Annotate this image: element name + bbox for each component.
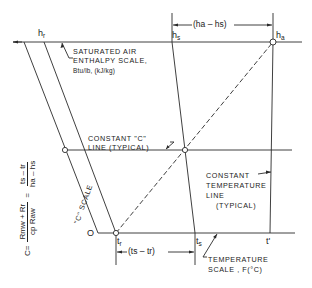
label-ha-minus-hs: (ha – hs) <box>193 19 227 29</box>
formula-fraction-2: ts – tr ha – hs <box>18 159 37 189</box>
constant-temp-label-1: CONSTANT <box>206 171 250 180</box>
label-ts: ts <box>196 236 202 249</box>
label-ha: ha <box>276 30 285 43</box>
enthalpy-scale-units: Btu/lb, (kJ/kg) <box>73 66 115 75</box>
label-tprime: t' <box>266 236 270 246</box>
formula-fraction-1: Rmw + Rr cp Raw <box>18 202 37 242</box>
label-origin: O <box>87 228 94 238</box>
enthalpy-scale-title-2: ENTHALPY SCALE, <box>73 56 147 65</box>
point-tr <box>113 230 118 235</box>
constant-temp-label-2: TEMPERATURE <box>206 181 266 190</box>
hs-ts-line <box>172 42 195 233</box>
label-hr: hr <box>38 28 45 41</box>
constant-temp-label-4: (TYPICAL) <box>216 201 256 210</box>
label-tr: tr <box>117 236 122 249</box>
constant-temp-label-3: LINE <box>206 191 224 200</box>
label-hs: hs <box>172 30 180 43</box>
enthalpy-scale-title-1: SATURATED AIR <box>73 47 137 56</box>
constant-c-label-2: LINE (TYPICAL) <box>88 143 149 152</box>
formula: C= Rmw + Rr cp Raw = ts – tr ha – hs <box>18 159 37 256</box>
point-intersection <box>182 147 187 152</box>
formula-lhs: C= <box>23 246 32 256</box>
label-ts-minus-tr: (ts – tr) <box>128 246 155 256</box>
temperature-scale-title-2: SCALE , F(°C) <box>208 265 263 274</box>
formula-equals: = <box>23 193 32 198</box>
temperature-scale-title-1: TEMPERATURE <box>208 255 268 264</box>
ha-tprime-line <box>270 42 273 233</box>
constant-c-label-1: CONSTANT "C" <box>88 134 146 143</box>
point-c <box>62 147 67 152</box>
